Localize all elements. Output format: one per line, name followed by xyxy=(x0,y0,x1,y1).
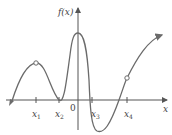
tick-label-x2: x2 xyxy=(55,109,64,120)
origin-label: 0 xyxy=(70,103,76,113)
open-point-x1 xyxy=(34,61,38,65)
function-graph: f(x) x 0 x1 x2 x3 x4 xyxy=(0,0,172,135)
open-point-x4 xyxy=(125,76,129,80)
tick-label-x3: x3 xyxy=(91,109,100,120)
x-axis-label: x xyxy=(163,104,168,114)
tick-label-x1: x1 xyxy=(32,109,41,120)
y-axis-label: f(x) xyxy=(57,7,74,17)
tick-label-x4: x4 xyxy=(124,109,133,120)
